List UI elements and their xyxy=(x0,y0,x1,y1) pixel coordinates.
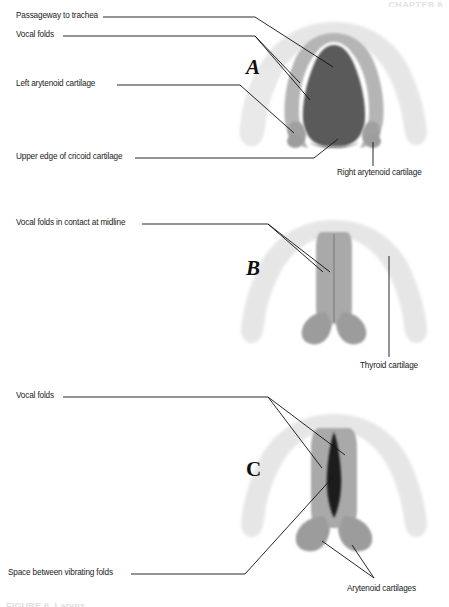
label-upper-edge-of-cricoid-cartilage: Upper edge of cricoid cartilage xyxy=(16,153,122,161)
label-passageway-to-trachea: Passageway to trachea xyxy=(16,12,98,20)
label-vocal-folds-a: Vocal folds xyxy=(16,31,54,39)
label-thyroid-cartilage: Thyroid cartilage xyxy=(360,362,418,370)
leader-lines-c xyxy=(63,397,374,578)
larynx-illustration-c xyxy=(241,414,427,551)
page-footer-text: FIGURE 6. Larynx xyxy=(6,601,85,607)
label-left-arytenoid-cartilage: Left arytenoid cartilage xyxy=(16,80,95,88)
panel-letter-b: B xyxy=(246,256,260,281)
leader-lines-b xyxy=(142,224,389,357)
leader-lines-a xyxy=(63,17,373,166)
label-arytenoid-cartilages: Arytenoid cartilages xyxy=(347,585,416,593)
larynx-illustration-a xyxy=(240,22,427,148)
label-space-between-vibrating-folds: Space between vibrating folds xyxy=(8,569,113,577)
panel-letter-a: A xyxy=(246,55,260,80)
figure-page: CHAPTER 6 xyxy=(0,0,449,607)
label-vocal-folds-in-contact-at-midline: Vocal folds in contact at midline xyxy=(16,219,125,227)
label-right-arytenoid-cartilage: Right arytenoid cartilage xyxy=(337,169,422,177)
page-header-text: CHAPTER 6 xyxy=(388,0,443,7)
panel-letter-c: C xyxy=(246,457,261,482)
label-vocal-folds-c: Vocal folds xyxy=(16,392,54,400)
larynx-figure-artwork xyxy=(0,0,449,607)
larynx-illustration-b xyxy=(241,220,427,344)
